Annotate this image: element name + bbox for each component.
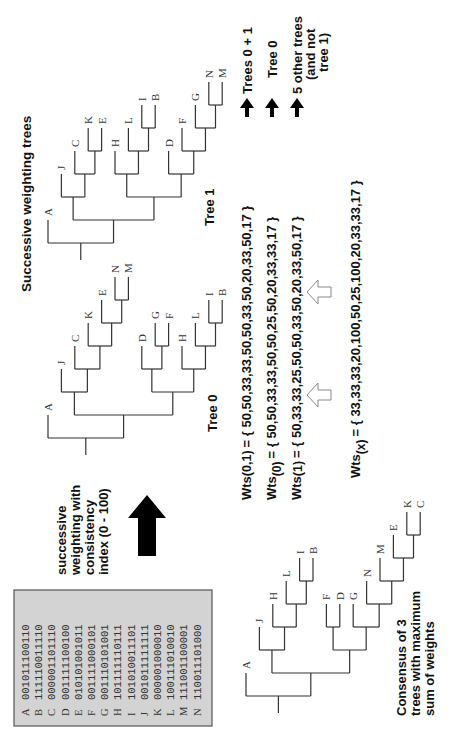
result-arrow-icon — [265, 98, 279, 117]
matrix-character-states: 001110101001 — [99, 624, 111, 700]
weights-label: Wts — [348, 454, 363, 478]
leaf-label-e: E — [387, 524, 399, 531]
leaf-label-e: E — [96, 117, 108, 124]
leaf-label-f: F — [176, 118, 188, 124]
weights-label: Wts — [239, 476, 254, 500]
tree-1: KECJIBLHNMGFDA — [42, 68, 228, 260]
weights-row-0-1: Wts(0,1)= { 50,50,33,33,50,50,33,50,20,3… — [239, 206, 254, 500]
leaf-label-b: B — [216, 289, 228, 296]
leaf-label-j: J — [55, 360, 67, 365]
consensus-caption-line: sum of weights — [422, 621, 437, 716]
leaf-label-f: F — [163, 313, 175, 319]
matrix-taxon-label: K — [152, 708, 163, 716]
leaf-label-l: L — [189, 312, 201, 319]
leaf-label-n: N — [109, 265, 121, 273]
weights-row-0: Wts(0)= { 50,50,33,33,50,50,25,50,20,33,… — [264, 217, 284, 500]
leaf-label-e: E — [96, 289, 108, 296]
leaf-label-c: C — [69, 140, 81, 147]
process-note-line: index (0 - 100) — [96, 488, 111, 575]
weights-values: = { 50,33,33,25,50,50,33,50,20,33,50,17 … — [289, 216, 304, 458]
leaf-label-h: H — [267, 592, 279, 600]
leaf-label-j: J — [253, 618, 265, 623]
leaf-label-f: F — [320, 594, 332, 600]
leaf-label-j: J — [55, 165, 67, 170]
svg-text:Wts(1)= { 50,33,33,25,50,50,33: Wts(1)= { 50,33,33,25,50,50,33,50,20,33,… — [289, 216, 305, 500]
weights-subscript: (x) — [354, 439, 368, 454]
matrix-taxon-label: M — [178, 706, 189, 716]
matrix-character-states: 111001100001 — [178, 624, 190, 700]
matrix-character-states: 001111000101 — [86, 624, 98, 700]
weights-row-1: Wts(1)= { 50,33,33,25,50,50,33,50,20,33,… — [289, 216, 305, 500]
matrix-character-states: 001011111111 — [139, 624, 151, 700]
leaf-label-a: A — [240, 661, 252, 669]
tree-1-label: Tree 1 — [202, 188, 217, 226]
successive-weighting-figure: Successive weighting trees A001011100110… — [0, 0, 451, 740]
figure-title: Successive weighting trees — [19, 116, 34, 292]
leaf-label-c: C — [414, 501, 426, 508]
matrix-character-states: 000001000010 — [152, 624, 164, 700]
consensus-caption-line: trees with maximum — [408, 591, 423, 716]
weights-label: Wts — [264, 476, 279, 500]
process-note-line: consistency — [82, 499, 97, 575]
svg-text:Wts(x)= { 33,33,33,20,100,50,2: Wts(x)= { 33,33,33,20,100,50,25,100,20,3… — [348, 180, 368, 478]
open-arrow-up-icon — [307, 383, 331, 407]
process-note-line: weighting with — [68, 485, 83, 576]
leaf-label-l: L — [280, 570, 292, 577]
svg-text:Wts(0,1)= { 50,50,33,33,50,50,: Wts(0,1)= { 50,50,33,33,50,50,33,50,20,3… — [239, 206, 254, 500]
leaf-label-k: K — [82, 311, 94, 319]
leaf-label-m: M — [374, 544, 386, 554]
matrix-character-states: 001011100110 — [20, 624, 32, 700]
leaf-label-g: G — [149, 311, 161, 319]
matrix-taxon-label: J — [139, 712, 150, 716]
open-arrow-up-icon — [307, 280, 331, 304]
leaf-label-i: I — [203, 292, 215, 296]
weights-values: = { 33,33,33,20,100,50,25,100,20,33,33,1… — [348, 180, 363, 436]
leaf-label-g: G — [347, 592, 359, 600]
tree-0: NMEKCJGFDIBLHA — [42, 263, 228, 455]
process-note-line: successive — [54, 506, 69, 575]
result-label: tree 1) — [316, 33, 331, 72]
leaf-label-n: N — [203, 70, 215, 78]
matrix-character-states: 001111100100 — [60, 624, 72, 700]
leaf-label-k: K — [401, 500, 413, 508]
matrix-taxon-label: D — [60, 708, 71, 716]
leaf-label-a: A — [42, 403, 54, 411]
matrix-character-states: 101010011101 — [126, 624, 138, 700]
data-matrix: A001011100110B111110011110C000001101110D… — [14, 590, 212, 726]
consensus-caption: Consensus of 3 trees with maximum sum of… — [394, 591, 437, 716]
leaf-label-c: C — [69, 335, 81, 342]
matrix-taxon-label: G — [99, 708, 110, 716]
matrix-taxon-label: F — [86, 710, 97, 716]
leaf-label-d: D — [136, 334, 148, 342]
leaf-label-m: M — [122, 263, 134, 273]
matrix-character-states: 111110011110 — [33, 624, 45, 700]
matrix-taxon-label: N — [192, 708, 203, 716]
result-label: Tree 0 — [265, 40, 280, 78]
leaf-label-m: M — [216, 68, 228, 78]
leaf-label-n: N — [361, 569, 373, 577]
result-arrow-icon — [240, 98, 254, 117]
matrix-taxon-label: H — [112, 708, 123, 716]
matrix-taxon-label: A — [20, 708, 31, 716]
matrix-character-states: 110011101000 — [192, 624, 204, 700]
weights-row-x: Wts(x)= { 33,33,33,20,100,50,25,100,20,3… — [348, 180, 368, 478]
matrix-taxon-label: B — [33, 709, 44, 716]
weights-subscript: (1) — [291, 461, 305, 476]
result-arrow-icon — [290, 98, 304, 117]
leaf-label-h: H — [176, 334, 188, 342]
matrix-taxon-label: I — [126, 712, 137, 716]
weights-values: = { 50,50,33,33,50,50,25,50,20,33,33,17 … — [264, 217, 279, 459]
process-note: successive weighting with consistency in… — [54, 485, 111, 576]
leaf-label-g: G — [189, 93, 201, 101]
leaf-label-b: B — [307, 547, 319, 554]
leaf-label-i: I — [136, 97, 148, 101]
big-arrow-right-icon — [128, 495, 166, 556]
leaf-label-i: I — [294, 550, 306, 554]
leaf-label-l: L — [122, 117, 134, 124]
matrix-character-states: 010101001011 — [73, 624, 85, 700]
matrix-taxon-label: C — [46, 709, 57, 716]
weights-values: = { 50,50,33,33,50,50,33,50,20,33,50,17 … — [239, 206, 254, 448]
weights-label: Wts — [289, 476, 304, 500]
svg-text:Wts(0)= { 50,50,33,33,50,50,25: Wts(0)= { 50,50,33,33,50,50,25,50,20,33,… — [264, 217, 284, 500]
matrix-taxon-label: E — [73, 710, 84, 716]
